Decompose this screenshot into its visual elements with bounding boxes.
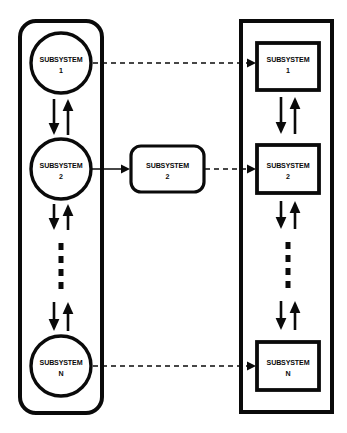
right-link-2-e-up-head [290,201,301,213]
node-left-2-index: 2 [59,173,63,181]
right-ellipsis-dot-1 [286,242,291,249]
right-link-1-2-down-head [276,122,287,134]
node-right-2-label: SUBSYSTEM [267,162,310,170]
node-left-n-index: N [58,370,63,378]
right-ellipsis-dot-4 [286,281,291,288]
right-link-2-e-down-head [276,217,287,229]
node-middle-2-index: 2 [166,173,170,181]
right-link-e-n-up-head [290,301,301,313]
node-middle-2-label: SUBSYSTEM [146,162,189,170]
node-middle-subsystem-2[interactable]: SUBSYSTEM 2 [131,146,204,192]
node-right-subsystem-n[interactable]: SUBSYSTEM N [257,342,319,390]
left-ellipsis-dot-4 [59,282,64,289]
right-ellipsis-dot-2 [286,255,291,262]
right-link-e-n-down-head [276,318,287,330]
cross-link-n-arrowhead [247,362,256,371]
left-link-1-2 [49,99,74,135]
node-left-1-label: SUBSYSTEM [40,56,83,64]
cross-link-2a-arrowhead [121,165,130,174]
left-link-e-n-up-head [63,302,74,314]
cross-link-1-arrowhead [247,59,256,68]
left-link-2-ellipsis [49,204,74,230]
node-left-subsystem-2[interactable]: SUBSYSTEM 2 [31,139,91,199]
node-right-n-label: SUBSYSTEM [267,359,310,367]
node-right-1-label: SUBSYSTEM [267,56,310,64]
node-right-1-index: 1 [286,67,290,75]
left-link-1-2-up-head [63,99,74,111]
left-link-e-n-down-head [49,319,60,331]
right-link-2-ellipsis [276,201,301,229]
right-link-ellipsis-n [276,301,301,330]
left-ellipsis [59,243,64,289]
node-right-subsystem-1[interactable]: SUBSYSTEM 1 [257,43,319,90]
node-left-1-index: 1 [59,67,63,75]
right-link-1-2-up-head [290,97,301,109]
cross-link-2b-arrowhead [247,165,256,174]
subsystem-block-diagram: SUBSYSTEM 1 SUBSYSTEM 2 SUBSYSTEM N [0,0,347,433]
left-ellipsis-dot-2 [59,256,64,263]
node-left-n-label: SUBSYSTEM [40,359,83,367]
node-left-2-label: SUBSYSTEM [40,162,83,170]
node-right-subsystem-2[interactable]: SUBSYSTEM 2 [257,145,319,193]
right-link-1-2 [276,97,301,134]
left-link-1-2-down-head [49,123,60,135]
right-ellipsis-dot-3 [286,268,291,275]
node-right-2-index: 2 [286,173,290,181]
right-ellipsis [286,242,291,288]
left-ellipsis-dot-1 [59,243,64,250]
left-link-ellipsis-n [49,302,74,331]
diagram-canvas: SUBSYSTEM 1 SUBSYSTEM 2 SUBSYSTEM N [0,0,347,433]
node-left-subsystem-1[interactable]: SUBSYSTEM 1 [31,33,91,93]
left-link-2-e-up-head [63,204,74,216]
left-link-2-e-down-head [49,218,60,230]
node-left-subsystem-n[interactable]: SUBSYSTEM N [31,336,91,396]
node-right-n-index: N [285,370,290,378]
left-ellipsis-dot-3 [59,269,64,276]
